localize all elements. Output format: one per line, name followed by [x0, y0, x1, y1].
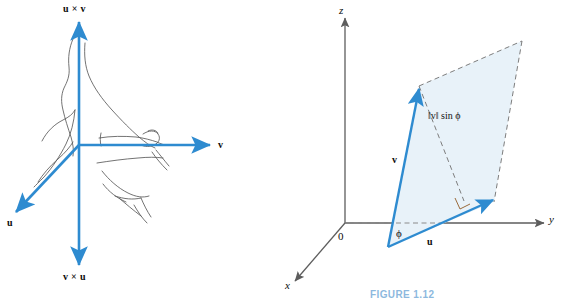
figure-caption: FIGURE 1.12 — [370, 289, 434, 299]
label-z-axis: z — [339, 5, 343, 16]
figure-page: u × v v × u v u — [0, 0, 564, 299]
right-hand-rule-svg — [0, 0, 282, 299]
label-height-expression: ‖v‖ sin ϕ — [428, 111, 461, 121]
label-vector-u: u — [427, 237, 433, 247]
label-v-cross-u: v × u — [63, 272, 86, 282]
cross-product-area-svg — [282, 0, 564, 299]
left-figure-panel: u × v v × u v u — [0, 0, 282, 299]
vector-u — [16, 145, 79, 212]
label-u-cross-v: u × v — [63, 4, 86, 14]
label-x-axis: x — [285, 280, 290, 291]
label-y-axis: y — [549, 214, 554, 225]
hand-sketch — [34, 39, 169, 223]
label-vector-u: u — [7, 218, 13, 228]
label-origin: 0 — [338, 231, 344, 242]
vector-axes — [16, 22, 210, 265]
label-angle-phi: ϕ — [396, 228, 402, 239]
right-figure-panel: z y x 0 ϕ v u ‖v‖ sin ϕ FIGURE 1.12 — [282, 0, 564, 299]
label-vector-v: v — [392, 155, 397, 165]
label-vector-v: v — [218, 140, 223, 150]
